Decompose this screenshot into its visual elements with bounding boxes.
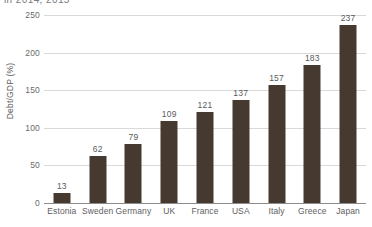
x-axis-label-greece: Greece — [298, 206, 326, 216]
y-axis-tick-labels: 050100150200250 — [16, 0, 40, 227]
bar-group: 121 — [187, 15, 223, 203]
bar-value-label: 109 — [162, 109, 177, 119]
bar-value-label: 183 — [305, 53, 320, 63]
bar-value-label: 237 — [341, 13, 356, 23]
bar-series: 136279109121137157183237 — [44, 15, 366, 203]
bar-group: 237 — [330, 15, 366, 203]
bar[interactable] — [268, 85, 285, 203]
bar[interactable] — [89, 156, 106, 203]
bar-group: 183 — [294, 15, 330, 203]
bar-value-label: 137 — [233, 88, 248, 98]
x-axis-label-france: France — [191, 206, 218, 216]
y-axis-tick-200: 200 — [16, 48, 40, 58]
x-axis-label-sweden: Sweden — [82, 206, 113, 216]
bar-value-label: 121 — [198, 100, 213, 110]
bar-group: 79 — [116, 15, 152, 203]
x-axis-label-estonia: Estonia — [47, 206, 76, 216]
y-axis-tick-50: 50 — [16, 160, 40, 170]
bar-chart: in 2014, 2015 Debt/GDP (%) 0501001502002… — [0, 0, 372, 227]
axis-baseline — [44, 203, 366, 204]
bar-group: 62 — [80, 15, 116, 203]
bar-group: 109 — [151, 15, 187, 203]
y-axis-tick-250: 250 — [16, 10, 40, 20]
bar-group: 13 — [44, 15, 80, 203]
y-axis-tick-0: 0 — [16, 198, 40, 208]
x-axis-label-japan: Japan — [336, 206, 360, 216]
bar-value-label: 62 — [93, 144, 103, 154]
x-axis-category-labels: EstoniaSwedenGermanyUKFranceUSAItalyGree… — [44, 206, 366, 224]
x-axis-label-germany: Germany — [116, 206, 152, 216]
x-axis-label-uk: UK — [163, 206, 175, 216]
bar[interactable] — [161, 121, 178, 203]
bar-value-label: 13 — [57, 181, 67, 191]
y-axis-tick-150: 150 — [16, 85, 40, 95]
bar[interactable] — [340, 25, 357, 203]
bar-group: 137 — [223, 15, 259, 203]
bar-group: 157 — [259, 15, 295, 203]
y-axis-title: Debt/GDP (%) — [5, 59, 15, 123]
bar-value-label: 79 — [128, 132, 138, 142]
bar[interactable] — [125, 144, 142, 203]
x-axis-label-italy: Italy — [269, 206, 285, 216]
bar[interactable] — [196, 112, 213, 203]
bar[interactable] — [53, 193, 70, 203]
plot-area: 136279109121137157183237 — [44, 15, 366, 203]
bar[interactable] — [232, 100, 249, 203]
y-axis-tick-100: 100 — [16, 123, 40, 133]
x-axis-label-usa: USA — [232, 206, 250, 216]
bar[interactable] — [304, 65, 321, 203]
bar-value-label: 157 — [269, 73, 284, 83]
